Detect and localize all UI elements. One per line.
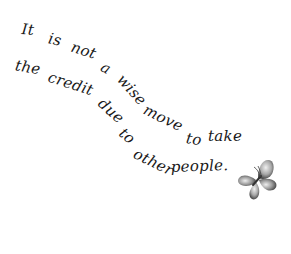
quote-word: the xyxy=(14,58,42,77)
quote-word: people. xyxy=(170,158,228,175)
quote-word: other xyxy=(131,147,176,179)
quote-word: not xyxy=(69,40,98,62)
quote-word: due xyxy=(95,96,127,127)
quote-word: to xyxy=(116,126,138,148)
quote-word: credit xyxy=(46,70,95,99)
quote-canvas: Itisnotawisemovetotake thecreditduetooth… xyxy=(0,0,291,254)
quote-word: wise xyxy=(114,72,149,108)
quote-word: to xyxy=(185,131,203,148)
butterfly-icon xyxy=(236,158,278,202)
quote-word: It xyxy=(21,22,35,38)
quote-word: a xyxy=(98,60,113,78)
quote-word: take xyxy=(208,129,242,144)
quote-word: move xyxy=(141,103,185,135)
quote-word: is xyxy=(47,31,63,48)
